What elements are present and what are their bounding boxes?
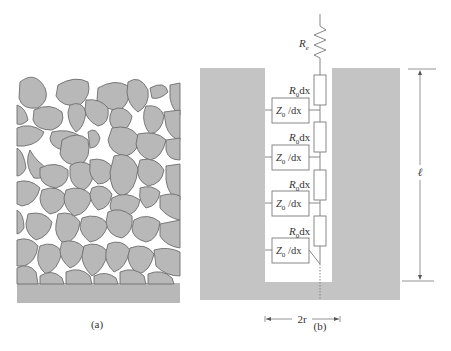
rc-label: Re [298, 37, 309, 52]
caption-a: (a) [91, 318, 104, 331]
length-label: ℓ [418, 166, 423, 178]
base-plate [17, 283, 180, 303]
width-label: 2r [297, 313, 307, 325]
resistor-chain [314, 75, 326, 300]
figure-canvas: (a) Re [0, 0, 451, 351]
series-resistor-rc [314, 14, 326, 75]
r0dx-label-2: R0dx [288, 131, 311, 146]
r0dx-label-1: R0dx [288, 84, 311, 99]
panel-b-pore-model: Re R0dx [200, 14, 436, 333]
panel-a-porous-electrode [17, 77, 180, 303]
caption-b: (b) [314, 320, 327, 333]
